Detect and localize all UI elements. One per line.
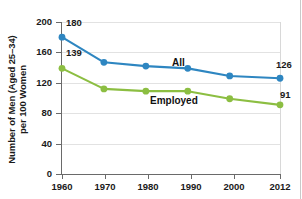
y-tick-label-0: 0 — [6, 169, 52, 179]
x-tick-mark-2012 — [280, 175, 281, 179]
plot-area: All Employed — [62, 22, 281, 174]
y-tick-label-160: 160 — [6, 47, 52, 57]
x-tick-mark-1960 — [62, 175, 63, 179]
series-inline-label-all: All — [172, 57, 185, 68]
x-tick-label-2012: 2012 — [258, 181, 302, 192]
data-point-employed-1980 — [142, 88, 149, 95]
data-point-all-1960 — [59, 34, 66, 41]
y-tick-label-120: 120 — [6, 78, 52, 88]
data-point-employed-1970 — [101, 85, 108, 92]
x-tick-mark-2000 — [234, 175, 235, 179]
y-tick-label-200: 200 — [6, 17, 52, 27]
figure-right-border — [300, 0, 301, 199]
data-point-all-1970 — [101, 59, 108, 66]
x-axis-line — [61, 174, 281, 175]
series-inline-label-employed: Employed — [150, 95, 198, 106]
data-point-employed-1960 — [59, 65, 66, 72]
x-tick-mark-1980 — [148, 175, 149, 179]
x-tick-mark-1990 — [191, 175, 192, 179]
point-label-all-2012: 126 — [276, 60, 292, 70]
line-chart-figure: Number of Men (Aged 25–34) per 100 Women… — [0, 0, 302, 199]
x-tick-mark-1970 — [105, 175, 106, 179]
data-point-all-2000 — [226, 73, 233, 80]
x-tick-label-1990: 1990 — [169, 181, 213, 192]
x-tick-label-1970: 1970 — [83, 181, 127, 192]
data-point-all-2012 — [277, 75, 284, 82]
point-label-employed-2012: 91 — [280, 90, 291, 100]
point-label-employed-1960: 139 — [66, 48, 82, 58]
data-point-all-1980 — [142, 63, 149, 70]
data-point-employed-2012 — [277, 101, 284, 108]
data-point-all-1990 — [184, 65, 191, 72]
markers-series-all — [59, 34, 284, 82]
data-point-employed-2000 — [226, 95, 233, 102]
line-series-all — [62, 37, 280, 78]
x-tick-label-1960: 1960 — [40, 181, 84, 192]
x-tick-label-2000: 2000 — [212, 181, 256, 192]
y-tick-label-80: 80 — [6, 108, 52, 118]
data-point-employed-1990 — [184, 88, 191, 95]
x-tick-label-1980: 1980 — [126, 181, 170, 192]
point-label-all-1960: 180 — [66, 18, 82, 28]
y-tick-label-40: 40 — [6, 139, 52, 149]
